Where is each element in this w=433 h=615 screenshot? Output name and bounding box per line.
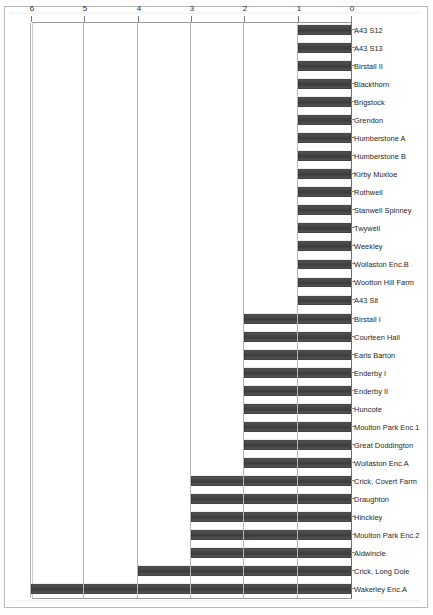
category-label: Humberstone B — [354, 152, 406, 161]
gridline — [297, 23, 298, 598]
gridline — [190, 23, 191, 598]
bar — [191, 530, 351, 540]
category-label: Twywell — [354, 224, 380, 233]
bar-row: Wakerley Enc.A — [33, 580, 351, 598]
bar-row: Birstall II — [33, 57, 351, 75]
bar-row: Twywell — [33, 219, 351, 237]
bar-row: Aldwincle — [33, 544, 351, 562]
bar-row: Enderby II — [33, 382, 351, 400]
bar — [298, 169, 351, 179]
bar-row: Blackthorn — [33, 75, 351, 93]
axis-tick-label: 5 — [73, 4, 97, 14]
gridline — [137, 23, 138, 598]
bar — [244, 350, 351, 360]
bar-row: Huncote — [33, 400, 351, 418]
bar-row: Wootton Hill Farm — [33, 273, 351, 291]
category-label: Kirby Muxloe — [354, 170, 397, 179]
bar — [244, 386, 351, 396]
bar — [244, 332, 351, 342]
axis-tick — [298, 16, 299, 22]
scanned-chart-page: Wakerley Enc.ACrick, Long DoleAldwincleM… — [0, 0, 433, 615]
bar — [298, 97, 351, 107]
category-label: Wollaston Enc.B — [354, 260, 409, 269]
bar — [244, 422, 351, 432]
bar — [31, 584, 351, 594]
bar — [244, 368, 351, 378]
bar — [298, 278, 351, 288]
bar — [298, 43, 351, 53]
bar-row: Courteen Hall — [33, 328, 351, 346]
category-label: Courteen Hall — [354, 332, 400, 341]
category-label: Enderby II — [354, 386, 388, 395]
bar-row: Earls Barton — [33, 346, 351, 364]
bar-row: Brigstock — [33, 93, 351, 111]
bar — [298, 205, 351, 215]
bar-series: Wakerley Enc.ACrick, Long DoleAldwincleM… — [33, 23, 351, 598]
bar — [298, 133, 351, 143]
bar — [191, 494, 351, 504]
axis-tick-label: 4 — [127, 4, 151, 14]
bar-row: Kirby Muxloe — [33, 165, 351, 183]
bar-row: Stanwell Spinney — [33, 201, 351, 219]
bar-row: Great Doddington — [33, 436, 351, 454]
axis-tick — [31, 16, 32, 22]
bar — [298, 241, 351, 251]
category-label: Aldwincle — [354, 548, 386, 557]
axis-tick — [138, 16, 139, 22]
bar — [244, 440, 351, 450]
axis-tick-label: 0 — [340, 4, 364, 14]
bar — [244, 314, 351, 324]
bar-row: Crick, Covert Farm — [33, 472, 351, 490]
axis-tick — [351, 16, 352, 22]
category-label: Enderby I — [354, 368, 386, 377]
category-label: Draughton — [354, 494, 389, 503]
bar — [298, 79, 351, 89]
bar-row: A43 Sit — [33, 291, 351, 309]
bar-row: Moulton Park Enc.1 — [33, 418, 351, 436]
bar-row: Draughton — [33, 490, 351, 508]
category-label: Huncote — [354, 404, 382, 413]
category-label: Blackthorn — [354, 80, 389, 89]
axis-tick — [191, 16, 192, 22]
bar-row: Moulton Park Enc.2 — [33, 526, 351, 544]
bar-row: Wollaston Enc.A — [33, 454, 351, 472]
bar-row: Birstall I — [33, 310, 351, 328]
category-label: Brigstock — [354, 98, 385, 107]
bar — [191, 476, 351, 486]
bar-row: A43 S13 — [33, 39, 351, 57]
axis-tick-label: 3 — [180, 4, 204, 14]
bar-row: Weekley — [33, 237, 351, 255]
category-label: Wootton Hill Farm — [354, 278, 414, 287]
bar-row: Crick, Long Dole — [33, 562, 351, 580]
category-label: A43 Sit — [354, 296, 378, 305]
bar-row: Enderby I — [33, 364, 351, 382]
bar — [298, 151, 351, 161]
category-label: Stanwell Spinney — [354, 206, 412, 215]
axis-tick — [84, 16, 85, 22]
bar — [298, 25, 351, 35]
category-label: Hinckley — [354, 512, 382, 521]
axis-tick-label: 2 — [233, 4, 257, 14]
category-label: Great Doddington — [354, 440, 413, 449]
category-label: Wakerley Enc.A — [354, 584, 407, 593]
category-label: A43 S13 — [354, 44, 383, 53]
bar — [244, 404, 351, 414]
bar — [191, 512, 351, 522]
category-label: Birstall II — [354, 62, 383, 71]
bar — [298, 296, 351, 306]
category-label: Crick, Covert Farm — [354, 476, 417, 485]
gridline — [30, 23, 31, 598]
category-label: Grendon — [354, 116, 383, 125]
category-label: Crick, Long Dole — [354, 566, 409, 575]
bar-row: A43 S12 — [33, 21, 351, 39]
bar — [298, 115, 351, 125]
rotated-figure: Wakerley Enc.ACrick, Long DoleAldwincleM… — [4, 6, 428, 608]
axis-tick-label: 1 — [287, 4, 311, 14]
category-label: Weekley — [354, 242, 383, 251]
bar-row: Humberstone A — [33, 129, 351, 147]
bar — [298, 223, 351, 233]
bar — [244, 458, 351, 468]
category-label: Moulton Park Enc.1 — [354, 422, 419, 431]
bar — [298, 61, 351, 71]
bar — [298, 259, 351, 269]
